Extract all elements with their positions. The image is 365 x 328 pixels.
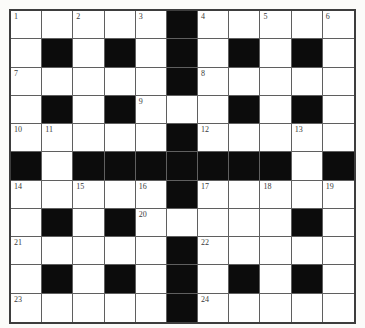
white-cell[interactable] (136, 124, 167, 152)
cell-number: 12 (201, 125, 209, 134)
white-cell[interactable] (73, 237, 104, 265)
white-cell[interactable] (136, 294, 167, 322)
white-cell[interactable] (260, 96, 291, 124)
black-cell (167, 265, 198, 293)
white-cell[interactable] (229, 294, 260, 322)
white-cell[interactable] (260, 294, 291, 322)
white-cell[interactable] (11, 39, 42, 67)
white-cell[interactable] (73, 265, 104, 293)
white-cell[interactable] (105, 294, 136, 322)
white-cell[interactable] (292, 237, 323, 265)
white-cell[interactable] (229, 181, 260, 209)
white-cell[interactable] (73, 68, 104, 96)
white-cell[interactable]: 15 (73, 181, 104, 209)
white-cell[interactable] (136, 68, 167, 96)
cell-number: 4 (201, 12, 205, 21)
cell-number: 7 (14, 69, 18, 78)
white-cell[interactable] (323, 294, 354, 322)
white-cell[interactable] (42, 68, 73, 96)
white-cell[interactable]: 23 (11, 294, 42, 322)
white-cell[interactable] (136, 265, 167, 293)
white-cell[interactable]: 17 (198, 181, 229, 209)
white-cell[interactable] (229, 124, 260, 152)
white-cell[interactable]: 13 (292, 124, 323, 152)
white-cell[interactable] (105, 124, 136, 152)
white-cell[interactable]: 16 (136, 181, 167, 209)
white-cell[interactable]: 12 (198, 124, 229, 152)
cell-number: 22 (201, 238, 209, 247)
white-cell[interactable] (323, 39, 354, 67)
white-cell[interactable] (229, 209, 260, 237)
white-cell[interactable] (323, 237, 354, 265)
white-cell[interactable] (260, 237, 291, 265)
white-cell[interactable] (105, 11, 136, 39)
white-cell[interactable]: 4 (198, 11, 229, 39)
white-cell[interactable] (73, 39, 104, 67)
white-cell[interactable] (167, 209, 198, 237)
white-cell[interactable] (260, 68, 291, 96)
white-cell[interactable] (198, 39, 229, 67)
white-cell[interactable] (198, 96, 229, 124)
white-cell[interactable] (323, 209, 354, 237)
white-cell[interactable] (73, 209, 104, 237)
white-cell[interactable] (260, 209, 291, 237)
white-cell[interactable] (323, 124, 354, 152)
white-cell[interactable] (105, 68, 136, 96)
white-cell[interactable]: 24 (198, 294, 229, 322)
white-cell[interactable]: 21 (11, 237, 42, 265)
white-cell[interactable] (260, 39, 291, 67)
white-cell[interactable] (42, 181, 73, 209)
white-cell[interactable] (73, 124, 104, 152)
white-cell[interactable]: 11 (42, 124, 73, 152)
white-cell[interactable]: 14 (11, 181, 42, 209)
white-cell[interactable] (323, 96, 354, 124)
white-cell[interactable]: 22 (198, 237, 229, 265)
white-cell[interactable] (136, 39, 167, 67)
crossword-grid: 123456789101112131415161718192021222324 (9, 9, 356, 324)
white-cell[interactable] (167, 96, 198, 124)
white-cell[interactable] (229, 237, 260, 265)
cell-number: 21 (14, 238, 22, 247)
white-cell[interactable] (42, 294, 73, 322)
white-cell[interactable]: 20 (136, 209, 167, 237)
white-cell[interactable] (105, 181, 136, 209)
white-cell[interactable] (292, 152, 323, 180)
white-cell[interactable] (260, 265, 291, 293)
white-cell[interactable]: 1 (11, 11, 42, 39)
white-cell[interactable] (11, 96, 42, 124)
cell-number: 23 (14, 295, 22, 304)
white-cell[interactable] (73, 96, 104, 124)
white-cell[interactable] (42, 152, 73, 180)
white-cell[interactable]: 7 (11, 68, 42, 96)
white-cell[interactable] (229, 68, 260, 96)
white-cell[interactable]: 19 (323, 181, 354, 209)
white-cell[interactable]: 18 (260, 181, 291, 209)
white-cell[interactable] (292, 11, 323, 39)
white-cell[interactable] (105, 237, 136, 265)
white-cell[interactable] (323, 68, 354, 96)
cell-number: 3 (139, 12, 143, 21)
white-cell[interactable]: 10 (11, 124, 42, 152)
white-cell[interactable] (198, 265, 229, 293)
white-cell[interactable] (42, 237, 73, 265)
white-cell[interactable] (292, 294, 323, 322)
white-cell[interactable] (73, 294, 104, 322)
white-cell[interactable] (11, 265, 42, 293)
cell-number: 19 (326, 182, 334, 191)
white-cell[interactable] (323, 265, 354, 293)
white-cell[interactable] (136, 237, 167, 265)
white-cell[interactable] (42, 11, 73, 39)
white-cell[interactable]: 3 (136, 11, 167, 39)
white-cell[interactable] (292, 68, 323, 96)
white-cell[interactable] (229, 11, 260, 39)
white-cell[interactable]: 9 (136, 96, 167, 124)
white-cell[interactable]: 5 (260, 11, 291, 39)
black-cell (229, 39, 260, 67)
white-cell[interactable]: 2 (73, 11, 104, 39)
white-cell[interactable] (11, 209, 42, 237)
white-cell[interactable]: 6 (323, 11, 354, 39)
white-cell[interactable] (292, 181, 323, 209)
white-cell[interactable] (260, 124, 291, 152)
white-cell[interactable] (198, 209, 229, 237)
white-cell[interactable]: 8 (198, 68, 229, 96)
